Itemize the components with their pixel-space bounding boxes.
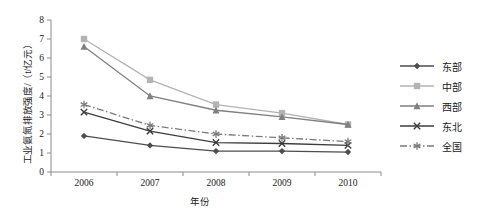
legend-item-西部[interactable]: 西部 bbox=[398, 96, 499, 116]
marker-triangle bbox=[147, 92, 154, 99]
legend-item-label: 东北 bbox=[436, 119, 462, 134]
data-point-marker bbox=[147, 142, 153, 148]
series-东北 bbox=[81, 109, 351, 149]
legend-item-label: 全国 bbox=[436, 139, 462, 154]
legend-key-icon bbox=[398, 59, 436, 73]
legend-item-label: 西部 bbox=[436, 99, 462, 114]
marker-diamond bbox=[345, 149, 351, 155]
chart-container: 工业氨氮排放强度/（t/亿元） 年份 012345678 20062007200… bbox=[0, 0, 499, 220]
marker-diamond bbox=[81, 133, 87, 139]
data-point-marker bbox=[414, 83, 420, 89]
marker-triangle bbox=[81, 43, 88, 50]
series-中部 bbox=[81, 36, 351, 128]
legend-key-icon bbox=[398, 139, 436, 153]
marker-diamond bbox=[213, 148, 219, 154]
data-point-marker bbox=[345, 138, 352, 146]
legend-item-全国[interactable]: 全国 bbox=[398, 136, 499, 156]
data-point-marker bbox=[81, 36, 87, 42]
series-西部 bbox=[81, 43, 352, 128]
legend-item-中部[interactable]: 中部 bbox=[398, 76, 499, 96]
data-point-marker bbox=[147, 77, 153, 83]
data-point-marker bbox=[81, 101, 88, 109]
legend-key-icon bbox=[398, 99, 436, 113]
legend-key-icon bbox=[398, 79, 436, 93]
data-point-marker bbox=[213, 148, 219, 154]
data-point-marker bbox=[81, 133, 87, 139]
legend-item-label: 东部 bbox=[436, 59, 462, 74]
marker-diamond bbox=[279, 148, 285, 154]
chart-legend: 东部中部西部东北全国 bbox=[398, 56, 499, 156]
legend-item-label: 中部 bbox=[436, 79, 462, 94]
legend-key-swatch bbox=[398, 59, 436, 73]
legend-item-东部[interactable]: 东部 bbox=[398, 56, 499, 76]
marker-diamond bbox=[147, 142, 153, 148]
legend-key-icon bbox=[398, 119, 436, 133]
legend-key-swatch bbox=[398, 119, 436, 133]
data-point-marker bbox=[147, 92, 154, 99]
legend-key-swatch bbox=[398, 79, 436, 93]
marker-diamond bbox=[414, 63, 420, 69]
legend-item-东北[interactable]: 东北 bbox=[398, 116, 499, 136]
legend-key-swatch bbox=[398, 99, 436, 113]
data-point-marker bbox=[81, 43, 88, 50]
legend-key-swatch bbox=[398, 139, 436, 153]
data-point-marker bbox=[414, 63, 420, 69]
marker-square bbox=[81, 36, 87, 42]
data-point-marker bbox=[345, 149, 351, 155]
marker-square bbox=[147, 77, 153, 83]
data-point-marker bbox=[279, 148, 285, 154]
marker-square bbox=[414, 83, 420, 89]
